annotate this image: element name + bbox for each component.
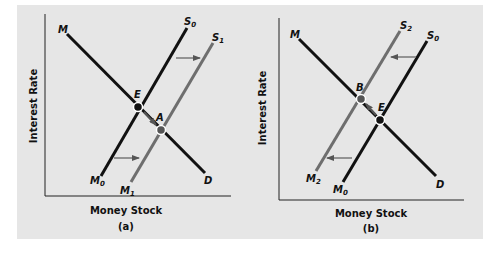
label-m: M xyxy=(58,24,68,35)
figure: M D S0 S1 M0 M1 E A Interest Rate Money … xyxy=(0,0,499,256)
panel-caption: (a) xyxy=(118,221,134,232)
y-axis-title: Interest Rate xyxy=(257,71,268,146)
label-m: M xyxy=(290,29,300,40)
x-axis-title: Money Stock xyxy=(90,205,163,216)
label-b: B xyxy=(356,82,364,93)
label-a: A xyxy=(155,112,164,123)
point-e xyxy=(376,116,385,125)
x-axis-title: Money Stock xyxy=(335,208,408,219)
y-axis-title: Interest Rate xyxy=(28,69,39,144)
figure-background xyxy=(17,5,483,239)
label-d: D xyxy=(204,175,212,186)
point-e xyxy=(134,103,143,112)
point-b xyxy=(357,95,366,104)
label-e: E xyxy=(378,102,385,113)
point-a xyxy=(157,126,166,135)
label-d: D xyxy=(436,179,444,190)
panel-caption: (b) xyxy=(363,223,379,234)
label-e: E xyxy=(134,89,141,100)
